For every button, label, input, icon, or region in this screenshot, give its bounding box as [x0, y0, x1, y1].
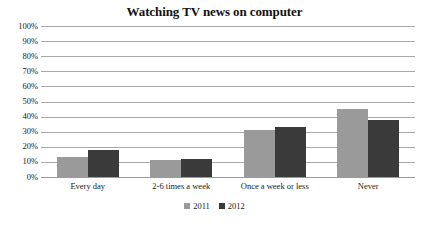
- y-axis-tick-label: 10%: [2, 157, 38, 166]
- x-axis-category-label: 2-6 times a week: [135, 182, 229, 191]
- gridline: [41, 71, 415, 72]
- legend-swatch-icon: [219, 203, 225, 209]
- legend-item-2012[interactable]: 2012: [219, 202, 245, 211]
- bar-2011-0: [57, 157, 88, 177]
- legend-swatch-icon: [184, 203, 190, 209]
- y-axis-tick-label: 70%: [2, 67, 38, 76]
- bar-chart: Watching TV news on computer 100%90%80%7…: [0, 0, 429, 230]
- bar-2012-3: [368, 120, 399, 177]
- y-axis-tick-label: 40%: [2, 112, 38, 121]
- y-axis-tick-label: 90%: [2, 37, 38, 46]
- chart-title: Watching TV news on computer: [0, 4, 429, 20]
- bar-2011-3: [337, 109, 368, 177]
- gridline: [41, 56, 415, 57]
- gridline: [41, 41, 415, 42]
- y-axis-tick-label: 60%: [2, 82, 38, 91]
- y-axis-tick-label: 80%: [2, 52, 38, 61]
- legend-label: 2012: [228, 202, 245, 211]
- bar-2012-0: [88, 150, 119, 177]
- y-axis-tick-label: 0%: [2, 173, 38, 182]
- y-axis-tick-label: 30%: [2, 127, 38, 136]
- bar-2011-2: [244, 130, 275, 177]
- plot-area: [41, 26, 415, 177]
- y-axis-tick-label: 50%: [2, 97, 38, 106]
- y-axis-tick-labels: 100%90%80%70%60%50%40%30%20%10%0%: [0, 26, 38, 177]
- legend-label: 2011: [193, 202, 210, 211]
- y-axis-tick-label: 100%: [2, 22, 38, 31]
- x-axis-category-label: Once a week or less: [228, 182, 322, 191]
- x-axis-category-label: Every day: [41, 182, 135, 191]
- legend-item-2011[interactable]: 2011: [184, 202, 210, 211]
- gridline: [41, 26, 415, 27]
- bar-2012-2: [275, 127, 306, 177]
- bar-2012-1: [181, 159, 212, 177]
- bar-2011-1: [150, 160, 181, 177]
- gridline: [41, 177, 415, 178]
- chart-legend: 20112012: [0, 202, 429, 211]
- x-axis-category-label: Never: [322, 182, 416, 191]
- y-axis-tick-label: 20%: [2, 142, 38, 151]
- gridline: [41, 102, 415, 103]
- gridline: [41, 86, 415, 87]
